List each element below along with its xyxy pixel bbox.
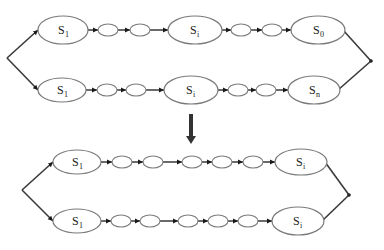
- state-label: S: [190, 23, 197, 37]
- intermediate-node: [208, 215, 228, 227]
- state-label: S: [313, 23, 320, 37]
- branch-line-out: [325, 162, 349, 195]
- intermediate-node: [143, 156, 163, 168]
- intermediate-node: [112, 156, 132, 168]
- intermediate-node: [130, 24, 150, 36]
- state-chain-diagram: S1SiS0S1SiSnS1SiS1Si: [0, 0, 384, 250]
- merge-point-icon: [347, 193, 351, 197]
- transform-arrow: [186, 114, 196, 144]
- state-node: Si: [164, 76, 218, 104]
- state-subscript: 1: [65, 30, 69, 39]
- state-node: S0: [291, 16, 345, 44]
- chain-edges: [86, 30, 291, 221]
- branch-arrow-in: [22, 162, 53, 190]
- state-subscript: 0: [320, 30, 324, 39]
- state-label: S: [72, 155, 79, 169]
- merge-point-icon: [369, 59, 373, 63]
- intermediate-node: [231, 24, 251, 36]
- branch-arrow-in: [22, 190, 53, 221]
- state-label: S: [186, 83, 193, 97]
- branch-line-out: [343, 30, 371, 61]
- branch-line-out: [338, 61, 371, 90]
- state-node: Si: [275, 149, 327, 175]
- state-label: S: [58, 23, 65, 37]
- state-subscript: 1: [64, 90, 68, 99]
- state-subscript: 1: [79, 221, 83, 230]
- intermediate-node: [182, 156, 202, 168]
- intermediate-node: [228, 84, 248, 96]
- state-subscript: n: [316, 90, 320, 99]
- state-node: Sn: [288, 76, 340, 104]
- intermediate-node: [212, 156, 232, 168]
- state-label: S: [309, 83, 316, 97]
- intermediate-node: [243, 156, 263, 168]
- state-label: S: [72, 214, 79, 228]
- intermediate-node: [98, 24, 118, 36]
- down-arrowhead-icon: [186, 136, 196, 144]
- intermediate-node: [140, 215, 160, 227]
- intermediate-node: [238, 215, 258, 227]
- state-node: Si: [168, 16, 222, 44]
- branch-arrow-in: [7, 30, 38, 58]
- state-node: S1: [38, 16, 88, 44]
- branch-arrow-in: [7, 58, 38, 90]
- state-label: S: [293, 214, 300, 228]
- intermediate-node: [126, 84, 146, 96]
- state-node: S1: [38, 78, 86, 102]
- state-subscript: 1: [79, 162, 83, 171]
- intermediate-node: [97, 84, 117, 96]
- state-node: Si: [272, 207, 324, 235]
- intermediate-node: [178, 215, 198, 227]
- state-label: S: [296, 155, 303, 169]
- state-node: S1: [53, 209, 101, 233]
- intermediate-node: [262, 24, 282, 36]
- state-label: S: [57, 83, 64, 97]
- state-node: S1: [53, 150, 101, 174]
- branch-line-out: [322, 195, 349, 221]
- intermediate-node: [256, 84, 276, 96]
- intermediate-node: [111, 215, 131, 227]
